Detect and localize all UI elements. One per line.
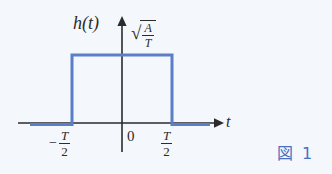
x-axis-arrowhead <box>214 118 224 128</box>
positive-half-T-denominator: 2 <box>161 144 172 158</box>
amplitude-label: √ A T <box>131 20 156 49</box>
x-tick-label-negative-half-T: − T 2 <box>49 129 70 158</box>
radicand: A T <box>140 20 155 49</box>
negative-half-T-fraction: T 2 <box>59 129 70 158</box>
pulse-waveform <box>30 55 210 125</box>
amplitude-denominator: T <box>143 36 154 49</box>
x-axis-label: t <box>226 114 230 130</box>
amplitude-fraction: A T <box>142 22 153 49</box>
x-tick-label-positive-half-T: T 2 <box>161 129 172 158</box>
y-axis <box>117 16 126 152</box>
figure-container: h(t) √ A T t − T 2 0 T 2 図 1 <box>0 0 332 174</box>
origin-label: 0 <box>127 129 135 144</box>
negative-half-T-numerator: T <box>59 129 70 143</box>
negative-half-T-denominator: 2 <box>59 144 70 158</box>
minus-sign: − <box>49 136 57 150</box>
amplitude-numerator: A <box>142 22 153 35</box>
y-axis-arrowhead <box>117 16 126 26</box>
positive-half-T-numerator: T <box>161 129 172 143</box>
positive-half-T-fraction: T 2 <box>161 129 172 158</box>
radical-icon: √ <box>131 23 141 42</box>
figure-caption: 図 1 <box>277 140 314 164</box>
y-axis-label: h(t) <box>73 14 99 32</box>
